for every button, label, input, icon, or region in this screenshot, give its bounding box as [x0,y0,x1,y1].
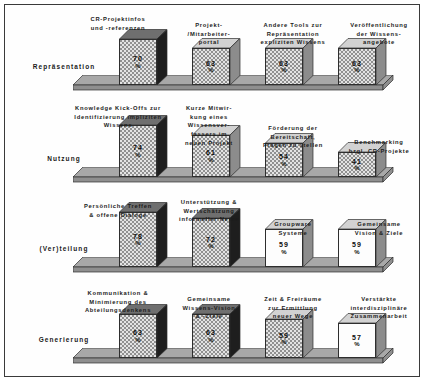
bar-front-face: 63% [119,314,157,358]
bar-percent-sign: % [208,337,213,343]
bar-front-face: 59% [265,319,303,358]
bar-value: 63 [206,329,216,336]
chart-band-4: Generierung63%Kommunikation & Minimierun… [5,5,419,378]
bar-percent-sign: % [135,337,140,343]
bar-percent-sign: % [281,339,286,345]
bar-caption-r4-c2: Gemeinsame Wissens-Vision & -Ziele [171,295,247,321]
bar-front-face: 57% [338,323,376,358]
bar-value: 63 [133,329,143,336]
bar-value: 57 [352,334,362,341]
bar-caption-r4-c1: Kommunikation & Minimierung des Abteilun… [67,289,169,315]
bar-caption-r4-c3: Zeit & Freiräume zur Ermittlung neuer We… [245,295,341,321]
row-label-4: Generierung [13,336,115,343]
bar-value: 59 [279,332,289,339]
bar-caption-r4-c4: Verstärkte interdisziplinäre Zusammenarb… [339,295,419,321]
chart-frame: Repräsentation70%CR-Projektinfos und -re… [4,4,420,377]
bar-percent-sign: % [354,341,359,347]
chart-panel: Repräsentation70%CR-Projektinfos und -re… [5,5,419,376]
